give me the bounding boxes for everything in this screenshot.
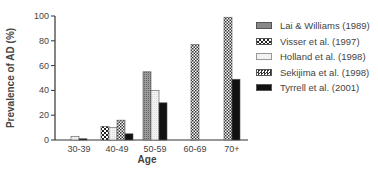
bar (109, 128, 117, 140)
bar (151, 90, 159, 140)
y-tick-label: 60 (39, 61, 49, 71)
bar (79, 139, 87, 140)
y-tick-label: 20 (39, 110, 49, 120)
x-tick-label: 30-39 (67, 144, 90, 154)
x-tick-label: 60-69 (183, 144, 206, 154)
y-tick-label: 100 (34, 11, 49, 21)
x-tick-label: 50-59 (143, 144, 166, 154)
bar (101, 126, 109, 140)
legend-item-visser: Visser et al. (1997) (256, 34, 370, 50)
legend-item-holland: Holland et al. (1998) (256, 49, 370, 65)
bar (191, 45, 199, 140)
bar (232, 79, 240, 140)
y-tick-label: 40 (39, 85, 49, 95)
bars (71, 17, 240, 140)
bar (125, 134, 133, 140)
swatch-icon (256, 69, 272, 76)
swatch-icon (256, 84, 272, 91)
legend-item-sekijima: Sekijima et al. (1998) (256, 65, 370, 81)
y-tick-label: 80 (39, 36, 49, 46)
axes: 020406080100Prevalence of AD (%)Age30-39… (5, 11, 248, 165)
bar (71, 136, 79, 140)
legend: Lai & Williams (1989) Visser et al. (199… (256, 18, 370, 96)
bar (159, 103, 167, 140)
y-axis-label: Prevalence of AD (%) (5, 28, 16, 128)
swatch-icon (256, 53, 272, 60)
x-tick-label: 40-49 (105, 144, 128, 154)
legend-item-tyrrell: Tyrrell et al. (2001) (256, 80, 370, 96)
bar (224, 17, 232, 140)
y-tick-label: 0 (44, 135, 49, 145)
x-axis-label: Age (138, 154, 157, 165)
bar (117, 120, 125, 140)
bar (143, 72, 151, 140)
swatch-icon (256, 38, 272, 45)
x-tick-label: 70+ (224, 144, 239, 154)
legend-item-lai: Lai & Williams (1989) (256, 18, 370, 34)
swatch-icon (256, 22, 272, 29)
